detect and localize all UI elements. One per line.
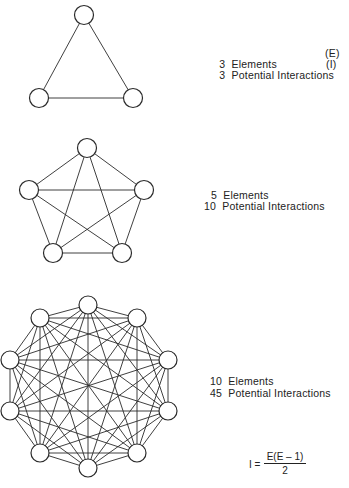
interaction-edge bbox=[87, 148, 122, 253]
element-node-circle bbox=[44, 244, 63, 263]
interaction-edge bbox=[29, 190, 53, 253]
interaction-edge bbox=[53, 190, 144, 253]
element-node-circle bbox=[1, 402, 19, 420]
interaction-edge bbox=[29, 190, 122, 253]
interaction-edge bbox=[88, 411, 168, 468]
element-node-circle bbox=[79, 296, 97, 314]
pentagon-interactions-label: 10 Potential Interactions bbox=[204, 201, 325, 212]
triangle-graph-3-elements bbox=[30, 6, 143, 108]
interaction-edge bbox=[88, 305, 168, 360]
element-node-circle bbox=[159, 402, 177, 420]
interaction-edge bbox=[29, 148, 87, 190]
decagon-interactions-label: 45 Potential Interactions bbox=[210, 388, 331, 399]
interaction-edge bbox=[10, 411, 137, 453]
element-node-circle bbox=[30, 89, 49, 108]
interaction-edge bbox=[53, 148, 87, 253]
interaction-edge bbox=[84, 15, 133, 98]
interaction-edge bbox=[10, 360, 137, 453]
interaction-edge bbox=[40, 318, 168, 411]
formula-fraction: E(E – 1) 2 bbox=[264, 451, 306, 476]
pentagon-graph-5-elements bbox=[20, 139, 154, 263]
interactions-symbol: (I) bbox=[326, 59, 337, 70]
interaction-edge bbox=[39, 15, 84, 98]
element-node-circle bbox=[1, 351, 19, 369]
interaction-edge bbox=[10, 411, 88, 468]
element-node-circle bbox=[113, 244, 132, 263]
element-node-circle bbox=[135, 181, 154, 200]
element-node-circle bbox=[20, 181, 39, 200]
interaction-edge bbox=[40, 305, 88, 453]
interaction-edge bbox=[88, 305, 137, 453]
formula-numerator: E(E – 1) bbox=[264, 451, 306, 464]
element-node-circle bbox=[128, 444, 146, 462]
element-node-circle bbox=[79, 459, 97, 477]
element-node-circle bbox=[75, 6, 94, 25]
element-node-circle bbox=[31, 444, 49, 462]
triangle-interactions-label: 3 Potential Interactions bbox=[213, 59, 334, 81]
element-node-circle bbox=[128, 309, 146, 327]
interactions-count-text: 3 Potential Interactions bbox=[219, 69, 334, 81]
element-node-circle bbox=[31, 309, 49, 327]
element-node-circle bbox=[78, 139, 97, 158]
element-node-circle bbox=[124, 89, 143, 108]
decagon-graph-10-elements bbox=[1, 296, 177, 477]
interaction-edge bbox=[10, 305, 88, 360]
interaction-edge bbox=[87, 148, 144, 190]
decagon-elements-label: 10 Elements bbox=[210, 376, 274, 387]
element-node-circle bbox=[159, 351, 177, 369]
formula-lhs: I = bbox=[249, 459, 260, 470]
formula-denominator: 2 bbox=[264, 464, 306, 476]
